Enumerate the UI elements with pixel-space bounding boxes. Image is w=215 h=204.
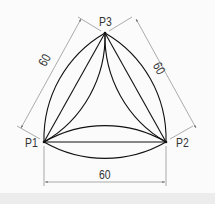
point-p1-marker (43, 141, 46, 144)
point-p3-marker (104, 32, 107, 35)
construction-curves (44, 33, 166, 158)
point-label-p3: P3 (99, 15, 112, 28)
point-p2-marker (165, 141, 168, 144)
point-label-p2: P2 (176, 136, 189, 149)
dimension-lines (17, 17, 196, 186)
point-label-p1: P1 (25, 136, 38, 149)
dimension-label-bottom: 60 (99, 168, 111, 181)
